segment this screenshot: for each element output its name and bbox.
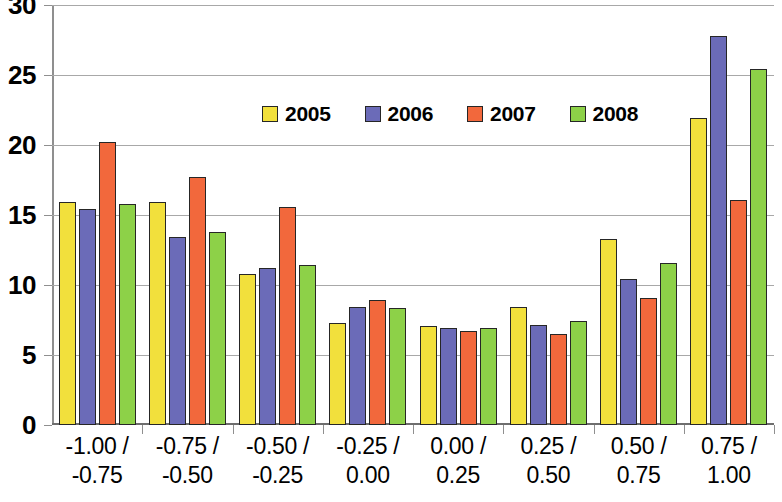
legend-label: 2006 [388, 103, 434, 124]
y-axis-tick-label: 0 [22, 412, 36, 438]
x-axis-label-line1: -0.75 / [142, 432, 232, 461]
bar-group [323, 5, 413, 425]
y-axis-tick-label: 20 [8, 132, 36, 158]
bar-2005--0.250.00[interactable] [329, 323, 346, 425]
bar-group [233, 5, 323, 425]
x-axis-label-line2: -0.50 [142, 461, 232, 490]
bar-2007-0.500.75[interactable] [640, 298, 657, 425]
bar-group [594, 5, 684, 425]
bar-2008--0.75-0.50[interactable] [209, 232, 226, 425]
legend-label: 2007 [490, 103, 536, 124]
y-axis-tick-mark [44, 355, 52, 356]
bar-2005-0.751.00[interactable] [690, 118, 707, 425]
y-axis-tick-mark [44, 5, 52, 6]
bar-2008--0.250.00[interactable] [389, 308, 406, 425]
bar-2008--0.50-0.25[interactable] [299, 265, 316, 425]
bar-group [684, 5, 774, 425]
y-axis-tick-mark [44, 75, 52, 76]
bar-2005--0.75-0.50[interactable] [149, 202, 166, 425]
legend-item-2006[interactable]: 2006 [365, 103, 434, 124]
x-axis-label-line1: 0.50 / [594, 432, 684, 461]
bar-2006-0.500.75[interactable] [620, 279, 637, 425]
bar-2006-0.250.50[interactable] [530, 325, 547, 425]
x-axis-label-2: -0.50 /-0.25 [233, 432, 323, 490]
x-axis-label-4: 0.00 /0.25 [413, 432, 503, 490]
x-axis-label-line2: 0.25 [413, 461, 503, 490]
bar-groups [52, 5, 774, 425]
x-axis-label-1: -0.75 /-0.50 [142, 432, 232, 490]
y-axis-tick-label: 10 [8, 272, 36, 298]
y-axis-tick-mark [44, 215, 52, 216]
bar-group [413, 5, 503, 425]
legend-item-2005[interactable]: 2005 [262, 103, 331, 124]
bar-2008--1.00-0.75[interactable] [119, 204, 136, 425]
bar-group [52, 5, 142, 425]
legend-swatch-icon [570, 106, 586, 122]
bar-2007-0.250.50[interactable] [550, 334, 567, 425]
legend-item-2008[interactable]: 2008 [570, 103, 639, 124]
x-axis-label-3: -0.25 /0.00 [323, 432, 413, 490]
plot-area [52, 5, 774, 425]
x-axis-label-line1: 0.25 / [503, 432, 593, 461]
bar-2005--1.00-0.75[interactable] [59, 202, 76, 425]
bar-2007--0.250.00[interactable] [369, 300, 386, 425]
x-axis-label-line2: 0.75 [594, 461, 684, 490]
x-axis-label-line1: 0.00 / [413, 432, 503, 461]
x-axis-label-7: 0.75 /1.00 [684, 432, 774, 490]
bar-chart: 051015202530 2005200620072008 -1.00 /-0.… [0, 0, 782, 502]
bar-group [142, 5, 232, 425]
legend-label: 2005 [285, 103, 331, 124]
y-axis-tick-label: 25 [8, 62, 36, 88]
x-axis-label-6: 0.50 /0.75 [594, 432, 684, 490]
y-axis-tick-labels: 051015202530 [0, 0, 44, 502]
bar-2006-0.751.00[interactable] [710, 36, 727, 425]
bar-2006--1.00-0.75[interactable] [79, 209, 96, 425]
bar-2005-0.000.25[interactable] [420, 326, 437, 425]
y-axis-tick-mark [44, 145, 52, 146]
bar-2006--0.50-0.25[interactable] [259, 268, 276, 425]
bar-2008-0.250.50[interactable] [570, 321, 587, 425]
y-axis-tick-mark [44, 285, 52, 286]
legend: 2005200620072008 [262, 103, 638, 124]
y-axis-tick-label: 30 [8, 0, 36, 18]
legend-swatch-icon [467, 106, 483, 122]
bar-2007--0.75-0.50[interactable] [189, 177, 206, 425]
y-axis-tick-label: 15 [8, 202, 36, 228]
x-axis-category-labels: -1.00 /-0.75-0.75 /-0.50-0.50 /-0.25-0.2… [52, 432, 774, 502]
bar-2007--0.50-0.25[interactable] [279, 207, 296, 425]
x-axis-label-line1: -1.00 / [52, 432, 142, 461]
bar-2005-0.250.50[interactable] [510, 307, 527, 425]
x-axis-tick-mark [774, 425, 775, 434]
bar-2005-0.500.75[interactable] [600, 239, 617, 425]
x-axis-label-5: 0.25 /0.50 [503, 432, 593, 490]
x-axis-label-line1: 0.75 / [684, 432, 774, 461]
legend-swatch-icon [262, 106, 278, 122]
x-axis-label-line1: -0.25 / [323, 432, 413, 461]
bar-2008-0.500.75[interactable] [660, 263, 677, 425]
x-axis-label-line2: 0.00 [323, 461, 413, 490]
x-axis-label-line1: -0.50 / [233, 432, 323, 461]
bar-2006-0.000.25[interactable] [440, 328, 457, 425]
legend-swatch-icon [365, 106, 381, 122]
bar-2007-0.000.25[interactable] [460, 331, 477, 425]
bar-2008-0.751.00[interactable] [750, 69, 767, 425]
bar-2008-0.000.25[interactable] [480, 328, 497, 425]
bar-group [503, 5, 593, 425]
y-axis-tick-label: 5 [22, 342, 36, 368]
bar-2006--0.75-0.50[interactable] [169, 237, 186, 425]
x-axis-label-line2: -0.75 [52, 461, 142, 490]
y-axis-tick-mark [44, 425, 52, 426]
bar-2007-0.751.00[interactable] [730, 200, 747, 425]
legend-item-2007[interactable]: 2007 [467, 103, 536, 124]
x-axis-label-0: -1.00 /-0.75 [52, 432, 142, 490]
x-axis-label-line2: 1.00 [684, 461, 774, 490]
x-axis-label-line2: 0.50 [503, 461, 593, 490]
x-axis-label-line2: -0.25 [233, 461, 323, 490]
legend-label: 2008 [593, 103, 639, 124]
bar-2005--0.50-0.25[interactable] [239, 274, 256, 425]
bar-2006--0.250.00[interactable] [349, 307, 366, 425]
bar-2007--1.00-0.75[interactable] [99, 142, 116, 425]
